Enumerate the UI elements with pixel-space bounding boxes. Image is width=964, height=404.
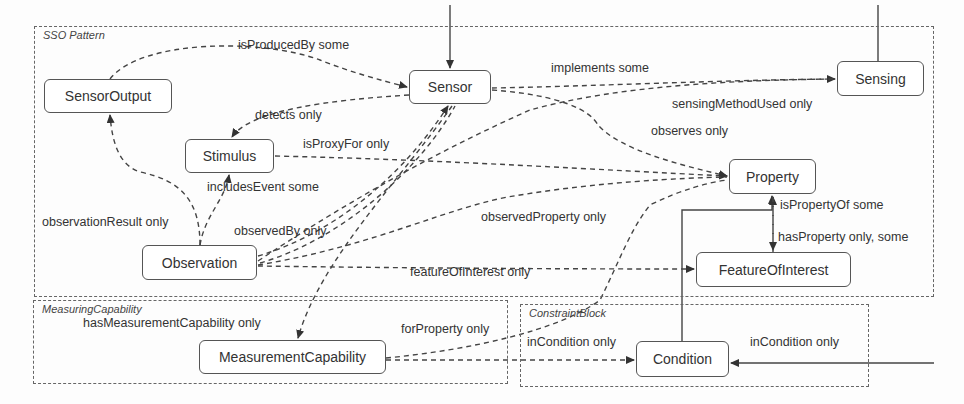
group-title: SSO Pattern	[43, 29, 105, 41]
ontology-diagram: SSO Pattern MeasuringCapability Constrai…	[0, 0, 964, 404]
node-sensor-output[interactable]: SensorOutput	[44, 79, 172, 113]
node-condition[interactable]: Condition	[636, 341, 729, 377]
edge-label-observedBy: observedBy only	[234, 224, 326, 238]
group-title: MeasuringCapability	[42, 303, 142, 315]
edge-label-includesEvent: includesEvent some	[207, 180, 319, 194]
edge-label-hasProperty: hasProperty only, some	[778, 230, 908, 244]
edge-label-isProxyFor: isProxyFor only	[303, 137, 389, 151]
edge-label-isPropertyOf: isPropertyOf some	[780, 198, 884, 212]
group-title: ConstraintBlock	[529, 307, 606, 319]
edge-label-forProperty: forProperty only	[401, 322, 489, 336]
edge-label-implements: implements some	[551, 61, 649, 75]
edge-label-detects: detects only	[255, 108, 322, 122]
edge-label-observationResult: observationResult only	[42, 215, 168, 229]
edge-label-observedProperty: observedProperty only	[481, 210, 606, 224]
edge-label-observes: observes only	[651, 124, 728, 138]
edge-label-isProducedBy: isProducedBy some	[238, 38, 349, 52]
node-sensing[interactable]: Sensing	[837, 61, 924, 96]
node-property[interactable]: Property	[729, 159, 816, 194]
edge-label-inCondition-2: inCondition only	[750, 335, 839, 349]
node-stimulus[interactable]: Stimulus	[185, 139, 274, 173]
edge-label-hasMeasurementCapability: hasMeasurementCapability only	[83, 316, 261, 330]
node-feature-of-interest[interactable]: FeatureOfInterest	[696, 252, 851, 287]
node-observation[interactable]: Observation	[142, 245, 257, 280]
edge-label-inCondition-1: inCondition only	[527, 335, 616, 349]
edge-label-featureOfInterest: featureOfInterest only	[410, 265, 530, 279]
node-sensor[interactable]: Sensor	[409, 70, 491, 104]
node-measurement-capability[interactable]: MeasurementCapability	[199, 340, 386, 374]
edge-label-sensingMethodUsed: sensingMethodUsed only	[672, 97, 812, 111]
